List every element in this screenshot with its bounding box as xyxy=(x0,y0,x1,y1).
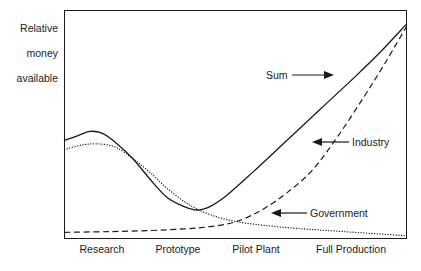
x-tick-label-research: Research xyxy=(64,243,140,256)
series-label-industry: Industry xyxy=(352,136,389,148)
chart-figure: Relative money available xyxy=(0,0,421,271)
x-tick-label-prototype: Prototype xyxy=(140,243,216,256)
series-label-government: Government xyxy=(310,207,368,219)
x-tick-label-full-production: Full Production xyxy=(296,243,406,256)
series-label-sum: Sum xyxy=(266,69,288,81)
x-tick-label-pilot-plant: Pilot Plant xyxy=(216,243,296,256)
plot-frame xyxy=(65,11,407,239)
